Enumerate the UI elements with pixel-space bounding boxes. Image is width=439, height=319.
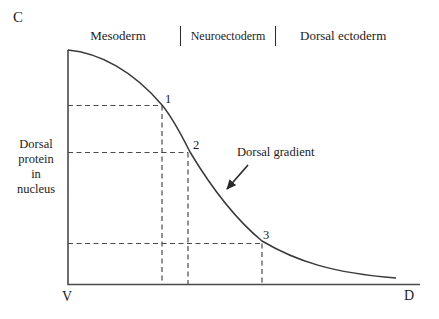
y-axis-label-line-1: Dorsal bbox=[7, 137, 65, 152]
region-label-dorsal-ectoderm: Dorsal ectoderm bbox=[300, 26, 386, 46]
y-axis-label-line-3: in bbox=[7, 167, 65, 182]
region-label-mesoderm: Mesoderm bbox=[75, 26, 161, 46]
point-label-3: 3 bbox=[263, 228, 269, 243]
point-label-2: 2 bbox=[193, 138, 199, 153]
axes bbox=[68, 50, 420, 285]
y-axis-label-line-2: protein bbox=[7, 152, 65, 167]
y-axis-label-line-4: nucleus bbox=[7, 182, 65, 197]
point-label-1: 1 bbox=[165, 92, 171, 107]
region-label-neuroectoderm: Neuroectoderm bbox=[180, 26, 276, 46]
panel-label: C bbox=[13, 9, 23, 26]
x-axis-dorsal-label: D bbox=[404, 288, 414, 304]
figure-panel: C Mesoderm Neuroectoderm Dorsal ectoderm… bbox=[0, 0, 439, 319]
threshold-guide-1 bbox=[68, 106, 162, 285]
threshold-guide-3 bbox=[68, 244, 262, 285]
gradient-plot bbox=[0, 0, 439, 319]
y-axis-label: Dorsal protein in nucleus bbox=[7, 137, 65, 197]
annotation-arrow bbox=[227, 165, 248, 189]
x-axis-ventral-label: V bbox=[62, 289, 72, 305]
threshold-guide-2 bbox=[68, 153, 188, 285]
dorsal-gradient-annotation: Dorsal gradient bbox=[237, 145, 314, 160]
